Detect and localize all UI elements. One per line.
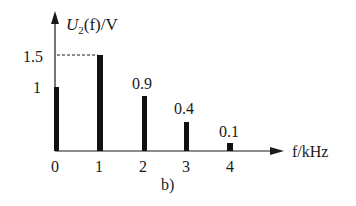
bar-3 (184, 122, 189, 151)
x-tick-4: 4 (226, 158, 234, 175)
data-label-4: 0.1 (219, 123, 239, 140)
bar-0 (54, 87, 59, 151)
bar-1 (97, 55, 103, 151)
y-tick-1-5: 1.5 (23, 48, 43, 65)
x-tick-3: 3 (182, 158, 190, 175)
bar-2 (142, 96, 147, 151)
y-axis-label: U2(f)/V (66, 15, 118, 36)
y-tick-1: 1 (33, 79, 41, 96)
bar-4 (227, 143, 233, 151)
x-axis (55, 147, 284, 155)
data-label-3: 0.4 (174, 100, 194, 117)
spectrum-chart: 1 1.5 0.9 0.4 0.1 0 1 2 3 4 U2(f)/V f/kH… (0, 0, 356, 206)
bars (54, 55, 233, 151)
subfigure-caption: b) (161, 176, 174, 194)
y-axis-arrow-icon (51, 11, 59, 24)
x-tick-1: 1 (95, 158, 103, 175)
x-tick-2: 2 (139, 158, 147, 175)
data-label-2: 0.9 (132, 75, 152, 92)
x-axis-arrow-icon (270, 147, 284, 155)
x-axis-label: f/kHz (292, 143, 328, 160)
x-tick-0: 0 (51, 158, 59, 175)
